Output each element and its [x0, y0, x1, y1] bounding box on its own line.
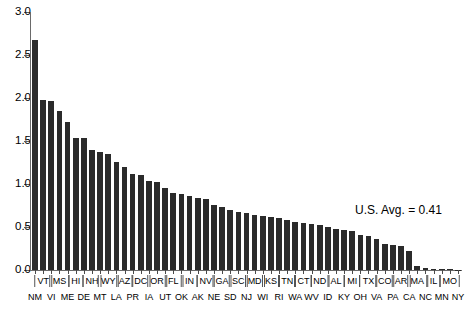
x-tick-mark: [59, 270, 60, 274]
x-tick-mark: [393, 270, 394, 274]
x-axis-label-bottom: RI: [275, 291, 284, 303]
x-axis-label-top: IL: [427, 275, 441, 287]
bar: [219, 207, 225, 270]
y-axis-ticks: 0.00.51.01.52.02.53.0: [0, 0, 31, 311]
x-axis-label-bottom: NM: [28, 291, 42, 303]
x-axis-label-bottom: PA: [387, 291, 398, 303]
bar: [48, 101, 54, 270]
x-tick-mark: [108, 270, 109, 274]
x-tick-mark: [271, 270, 272, 274]
bar: [325, 227, 331, 270]
bar: [309, 224, 315, 270]
x-tick-mark: [295, 270, 296, 274]
x-tick-mark: [238, 270, 239, 274]
x-axis-label-bottom: LA: [111, 291, 122, 303]
bar: [358, 235, 364, 270]
bar: [292, 222, 298, 270]
x-tick-mark: [360, 270, 361, 274]
x-tick-mark: [84, 270, 85, 274]
x-tick-mark: [100, 270, 101, 274]
chart-figure: 0.00.51.01.52.02.53.0 VTMSHINHWYAZDCORFL…: [0, 0, 465, 311]
x-axis-label-bottom: VI: [47, 291, 56, 303]
x-tick-mark: [43, 270, 44, 274]
bar: [32, 40, 38, 270]
x-tick-mark: [76, 270, 77, 274]
x-axis-label-bottom: PR: [126, 291, 139, 303]
bar: [284, 220, 290, 270]
bar: [179, 194, 185, 270]
x-tick-mark: [149, 270, 150, 274]
x-tick-mark: [222, 270, 223, 274]
x-tick-mark: [133, 270, 134, 274]
x-tick-mark: [409, 270, 410, 274]
x-axis-label-bottom: AK: [192, 291, 204, 303]
x-axis-label-top: AL: [327, 275, 344, 287]
x-axis-label-bottom: WI: [257, 291, 268, 303]
us-average-annotation: U.S. Avg. = 0.41: [355, 203, 442, 217]
x-axis-label-top: OR: [147, 275, 167, 287]
x-tick-mark: [125, 270, 126, 274]
x-axis-label-top: HI: [68, 275, 83, 287]
x-axis-labels-top-row: VTMSHINHWYAZDCORFLINNVGASCMDKSTNCTNDALMI…: [31, 275, 462, 288]
y-tick-label: 2.5: [5, 49, 31, 61]
y-tick-label: 3.0: [5, 6, 31, 18]
x-tick-mark: [206, 270, 207, 274]
x-axis-label-top: MI: [344, 275, 360, 287]
x-axis-label-bottom: ME: [61, 291, 75, 303]
bar: [268, 217, 274, 270]
bar: [187, 196, 193, 270]
bar: [40, 100, 46, 270]
x-tick-mark: [417, 270, 418, 274]
x-axis-label-bottom: OK: [175, 291, 188, 303]
bar: [170, 193, 176, 270]
bar: [244, 213, 250, 270]
x-axis-label-bottom: VA: [371, 291, 382, 303]
x-axis-label-bottom: MT: [94, 291, 107, 303]
x-tick-mark: [230, 270, 231, 274]
x-tick-mark: [247, 270, 248, 274]
bar: [252, 215, 258, 270]
bar: [97, 152, 103, 270]
x-tick-mark: [450, 270, 451, 274]
bar: [211, 205, 217, 270]
bar: [301, 223, 307, 270]
x-axis-label-bottom: IA: [145, 291, 154, 303]
x-axis-label-bottom: CA: [403, 291, 416, 303]
bar: [276, 218, 282, 270]
bar: [341, 230, 347, 270]
bar: [390, 245, 396, 270]
x-tick-mark: [385, 270, 386, 274]
bar: [382, 244, 388, 270]
x-tick-mark: [458, 270, 459, 274]
bar: [154, 182, 160, 270]
bar: [89, 150, 95, 270]
x-axis-label-bottom: WV: [304, 291, 319, 303]
x-axis-label-bottom: NJ: [241, 291, 252, 303]
x-tick-mark: [116, 270, 117, 274]
x-tick-mark: [320, 270, 321, 274]
x-tick-mark: [279, 270, 280, 274]
x-tick-mark: [434, 270, 435, 274]
x-tick-mark: [287, 270, 288, 274]
x-axis-label-bottom: NE: [208, 291, 221, 303]
x-tick-mark: [173, 270, 174, 274]
x-tick-mark: [263, 270, 264, 274]
x-axis-label-bottom: KY: [338, 291, 350, 303]
x-axis-label-bottom: ID: [323, 291, 332, 303]
bar: [122, 167, 128, 270]
y-tick-label: 0.5: [5, 221, 31, 233]
x-axis-label-bottom: WA: [288, 291, 302, 303]
bar: [162, 188, 168, 270]
bar: [130, 174, 136, 270]
x-tick-mark: [165, 270, 166, 274]
bar-series: [31, 12, 462, 270]
x-tick-mark: [141, 270, 142, 274]
bar: [398, 246, 404, 270]
x-axis-label-top: MO: [440, 275, 461, 287]
x-tick-mark: [312, 270, 313, 274]
x-tick-mark: [425, 270, 426, 274]
x-tick-mark: [352, 270, 353, 274]
x-tick-mark: [214, 270, 215, 274]
bar: [81, 138, 87, 270]
x-tick-mark: [303, 270, 304, 274]
